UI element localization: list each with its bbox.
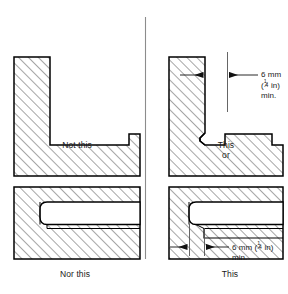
dimension-text-corner-relief: 6 mm (1⁄4 in) min. (261, 70, 281, 101)
drawing-sheet: Not this This or Nor this This 6 mm (1⁄4… (0, 0, 288, 294)
caption-this-or: or (196, 150, 256, 160)
dimension-text-slot-clearance: 6 mm (1⁄4 in) min. (232, 242, 273, 263)
dim-unit-top: in) (269, 81, 280, 90)
fraction-quarter-top: 1⁄4 (264, 80, 269, 88)
fraction-quarter-bottom: 1⁄4 (257, 242, 262, 250)
part-l-section-sharp (14, 57, 147, 176)
dim-qualifier-bottom: min. (232, 253, 247, 262)
part-block-slot-runout (14, 187, 140, 259)
caption-nor-this: Nor this (40, 269, 110, 279)
caption-this-bottom: This (200, 269, 260, 279)
dim-unit-bottom: in) (262, 243, 273, 252)
caption-not-this: Not this (47, 140, 107, 150)
caption-this-top: This (196, 140, 256, 150)
dim-qualifier-top: min. (261, 91, 276, 100)
dim-metric-bottom: 6 mm (232, 243, 254, 252)
